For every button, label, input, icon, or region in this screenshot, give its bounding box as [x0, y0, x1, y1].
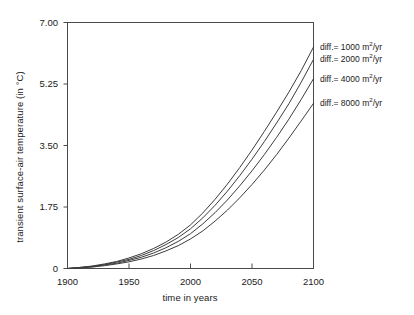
- legend-entry-1000: diff.= 1000 m2/yr: [320, 42, 382, 52]
- series-line-1000: [68, 47, 314, 268]
- legend-entry-2000: diff.= 2000 m2/yr: [320, 54, 382, 64]
- chart-figure: transient surface-air temperature (in °C…: [0, 0, 414, 315]
- axes-frame: [68, 23, 314, 269]
- legend-entry-4000: diff.= 4000 m2/yr: [320, 74, 382, 84]
- series-line-8000: [68, 103, 314, 268]
- legend-unit-exponent: 2: [369, 53, 372, 60]
- legend-entry-8000: diff.= 8000 m2/yr: [320, 98, 382, 108]
- legend-unit-exponent: 2: [369, 40, 372, 47]
- legend-unit-exponent: 2: [369, 72, 372, 79]
- series-line-2000: [68, 59, 314, 268]
- axis-tick-marks: [64, 23, 314, 269]
- legend-unit-exponent: 2: [369, 97, 372, 104]
- series-line-4000: [68, 79, 314, 269]
- data-series-group: [68, 47, 314, 268]
